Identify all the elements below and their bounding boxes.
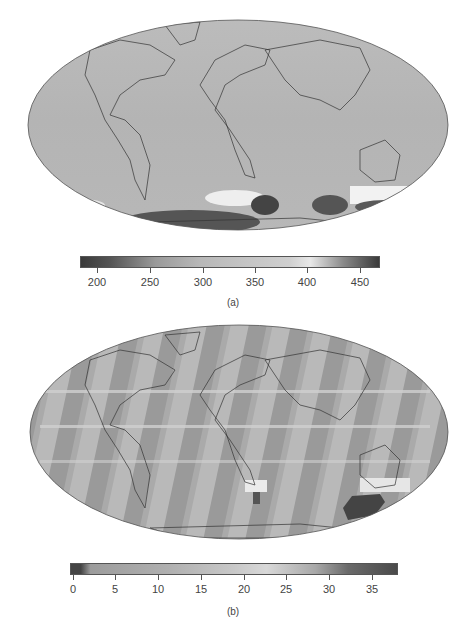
colorbar-b-tick <box>286 575 287 580</box>
colorbar-b <box>70 563 398 575</box>
colorbar-a-tick-label: 400 <box>298 276 316 288</box>
colorbar-b-tick-label: 35 <box>366 583 378 595</box>
colorbar-b-tick <box>244 575 245 580</box>
panel-b-label: (b) <box>227 606 239 617</box>
colorbar-a <box>80 256 380 268</box>
colorbar-b-tick-label: 25 <box>280 583 292 595</box>
colorbar-b-tick <box>73 575 74 580</box>
colorbar-b-tick <box>158 575 159 580</box>
colorbar-a-tick-label: 450 <box>351 276 369 288</box>
colorbar-a-tick-label: 200 <box>88 276 106 288</box>
map-a-mollweide <box>0 0 470 240</box>
colorbar-a-tick <box>150 268 151 273</box>
colorbar-b-tick <box>329 575 330 580</box>
panel-a-label: (a) <box>227 297 239 308</box>
colorbar-a-tick-label: 250 <box>141 276 159 288</box>
colorbar-a-tick <box>97 268 98 273</box>
colorbar-a-tick-label: 300 <box>194 276 212 288</box>
colorbar-a-tick <box>255 268 256 273</box>
panel-a: 200 250 300 350 400 450 (a) <box>0 0 470 310</box>
colorbar-b-tick-label: 30 <box>323 583 335 595</box>
colorbar-b-tick-label: 15 <box>195 583 207 595</box>
colorbar-b-tick <box>201 575 202 580</box>
colorbar-a-tick <box>307 268 308 273</box>
colorbar-b-tick-label: 20 <box>238 583 250 595</box>
colorbar-b-tick-label: 10 <box>152 583 164 595</box>
map-b-mollweide <box>0 310 470 550</box>
colorbar-a-tick <box>360 268 361 273</box>
colorbar-b-tick <box>372 575 373 580</box>
colorbar-a-tick <box>203 268 204 273</box>
colorbar-b-tick-label: 0 <box>70 583 76 595</box>
panel-b: 0 5 10 15 20 25 30 35 (b) <box>0 310 470 635</box>
colorbar-b-tick <box>115 575 116 580</box>
colorbar-a-tick-label: 350 <box>246 276 264 288</box>
colorbar-b-tick-label: 5 <box>112 583 118 595</box>
